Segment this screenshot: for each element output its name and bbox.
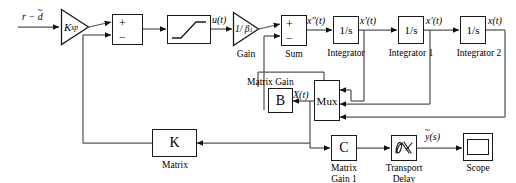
scope-screen-icon bbox=[467, 139, 489, 155]
signal-x-dot-1-label: x′(t) bbox=[360, 15, 376, 26]
integrator-label: Integrator bbox=[322, 48, 370, 59]
beta-gain-label: Gain bbox=[224, 49, 268, 60]
signal-y-output-label: ~y(s) bbox=[425, 131, 440, 142]
matrix-gain-c-label: Matrix Gain 1 bbox=[320, 163, 368, 183]
input-signal-text: r − bbox=[22, 11, 38, 22]
matrix-gain-b-block[interactable]: B bbox=[268, 88, 293, 113]
sum1-minus-sign: − bbox=[119, 31, 126, 43]
matrix-gain-c-text: C bbox=[339, 140, 348, 156]
ksp-gain-subscript: sp bbox=[71, 23, 78, 32]
signal-y-suffix: (s) bbox=[429, 131, 440, 142]
saturation-curve-icon bbox=[169, 17, 209, 42]
input-signal-label: r − ~d bbox=[22, 11, 43, 22]
matrix-gain-b-text: B bbox=[276, 93, 285, 109]
matrix-gain-b-label: Matrix Gain bbox=[247, 77, 309, 88]
matrix-k-block[interactable]: K bbox=[152, 129, 197, 157]
signal-x-label: x(t) bbox=[488, 15, 502, 26]
matrix-k-text: K bbox=[169, 135, 179, 151]
sum-block[interactable] bbox=[281, 15, 307, 46]
sum1-plus-sign: + bbox=[119, 17, 126, 29]
sum2-plus-sign: + bbox=[286, 18, 293, 30]
integrator-1-block[interactable]: 1/s bbox=[398, 16, 424, 44]
saturation-block[interactable] bbox=[167, 15, 211, 44]
integrator-1-label: Integrator 1 bbox=[374, 48, 448, 59]
scope-label: Scope bbox=[456, 163, 500, 174]
beta-gain-block[interactable]: 1/ β1 bbox=[232, 11, 260, 47]
ksp-gain-text: K bbox=[64, 21, 71, 33]
signal-x-dot-2-label: x′(t) bbox=[426, 15, 442, 26]
beta-gain-subscript: 1 bbox=[250, 26, 253, 33]
sum2-minus-sign: − bbox=[286, 32, 293, 44]
transport-delay-label: Transport Delay bbox=[379, 163, 429, 183]
sum-block-label: Sum bbox=[275, 49, 313, 60]
signal-u-label: u(t) bbox=[212, 14, 226, 25]
ksp-gain-block[interactable]: Ksp bbox=[60, 8, 90, 46]
integrator-2-block[interactable]: 1/s bbox=[460, 16, 486, 44]
integrator-2-label: Integrator 2 bbox=[444, 48, 514, 59]
signal-X-state-label: X(t) bbox=[293, 89, 309, 100]
matrix-gain-c-block[interactable]: C bbox=[331, 135, 357, 161]
integrator-text: 1/s bbox=[340, 24, 353, 36]
transport-delay-block[interactable] bbox=[391, 135, 417, 161]
beta-gain-text: 1/ β bbox=[235, 24, 250, 34]
block-diagram-canvas: r − ~d Ksp + − u(t) 1/ β1 Gain + − Sum x… bbox=[0, 0, 516, 183]
integrator-block[interactable]: 1/s bbox=[333, 16, 359, 44]
matrix-k-label: Matrix bbox=[149, 160, 201, 171]
delay-waveform-icon bbox=[393, 137, 415, 159]
scope-block[interactable] bbox=[463, 133, 493, 161]
summing-junction-1[interactable] bbox=[112, 14, 143, 45]
integrator-1-text: 1/s bbox=[405, 24, 418, 36]
mux-block[interactable]: Mux bbox=[314, 80, 340, 121]
mux-text: Mux bbox=[317, 95, 338, 107]
integrator-2-text: 1/s bbox=[467, 24, 480, 36]
signal-x-ddot-label: x″(t) bbox=[307, 15, 325, 26]
